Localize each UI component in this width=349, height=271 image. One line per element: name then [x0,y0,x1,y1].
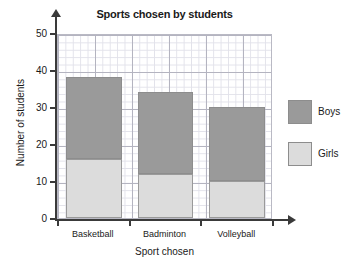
y-tick-label-40: 40 [7,66,47,76]
bar-chart: Sports chosen by students 01020304050 Ba… [0,0,349,271]
y-tick-0 [50,218,56,220]
bar-basketball [66,33,122,218]
legend-label-girls: Girls [318,148,339,159]
y-axis-line [55,16,57,220]
bar-segment-girls [66,159,122,218]
legend-label-boys: Boys [318,106,340,117]
x-tick-label-basketball: Basketball [57,229,129,239]
bar-badminton [138,33,194,218]
y-tick-label-10: 10 [7,177,47,187]
bar-segment-boys [66,77,122,158]
x-tick-2 [200,220,202,226]
x-tick-0 [57,220,59,226]
legend-item-girls: Girls [288,142,348,166]
bar-segment-boys [209,107,265,181]
x-tick-label-badminton: Badminton [129,229,201,239]
chart-legend: BoysGirls [288,100,348,184]
y-tick-label-20: 20 [7,140,47,150]
chart-title: Sports chosen by students [57,8,272,20]
y-axis-title: Number of students [15,53,26,193]
bar-volleyball [209,33,265,218]
x-tick-1 [129,220,131,226]
y-tick-10 [50,181,56,183]
bar-segment-girls [209,181,265,218]
x-axis-line [55,219,289,221]
legend-swatch-boys [288,100,312,124]
x-axis-arrow-icon [288,215,296,225]
plot-area [57,34,272,219]
x-tick-label-volleyball: Volleyball [200,229,272,239]
bar-segment-girls [138,174,194,218]
y-tick-20 [50,144,56,146]
y-tick-label-30: 30 [7,103,47,113]
y-tick-label-0: 0 [7,214,47,224]
bar-segment-boys [138,92,194,173]
y-axis-arrow-icon [51,9,61,17]
y-tick-label-50: 50 [7,29,47,39]
x-axis-title: Sport chosen [57,246,272,257]
y-tick-30 [50,107,56,109]
x-tick-3 [272,220,274,226]
y-tick-40 [50,70,56,72]
legend-item-boys: Boys [288,100,348,124]
legend-swatch-girls [288,142,312,166]
y-tick-50 [50,33,56,35]
